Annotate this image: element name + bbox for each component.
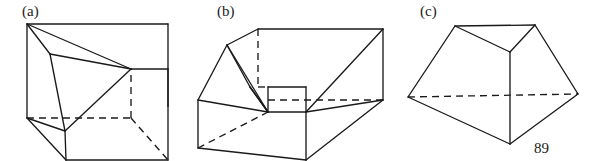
solid-edge (510, 94, 578, 144)
solid-edge (455, 26, 510, 52)
figures-canvas: (a) (0, 0, 596, 161)
solid-edge (455, 25, 535, 26)
figure-c: (c) (408, 3, 578, 144)
figure-b: (b) (198, 3, 383, 160)
figure-c-hidden-edges (408, 94, 578, 97)
figure-a-hidden-edges (27, 69, 168, 160)
figure-plate: (a) (0, 0, 596, 161)
figure-a: (a) (22, 3, 168, 160)
solid-edge (50, 54, 65, 131)
hidden-edge (198, 112, 268, 148)
solid-edge (27, 24, 131, 69)
figure-c-label: (c) (420, 3, 437, 20)
solid-edge (198, 45, 227, 100)
hidden-edge (408, 94, 578, 97)
figure-a-solid-edges (27, 24, 168, 160)
solid-edge (198, 148, 306, 160)
solid-edge (50, 54, 131, 69)
solid-edge (535, 25, 578, 94)
page-number: 89 (534, 140, 549, 156)
solid-edge (65, 69, 131, 131)
solid-edge (408, 26, 455, 97)
figure-b-label: (b) (217, 3, 235, 20)
solid-edge (198, 100, 268, 112)
solid-edge (65, 131, 66, 160)
figure-a-label: (a) (22, 3, 39, 20)
solid-edge (408, 97, 510, 144)
solid-edge (227, 45, 268, 112)
solid-edge (306, 100, 383, 112)
solid-edge (227, 29, 258, 45)
figure-b-solid-edges (198, 29, 383, 160)
solid-edge (306, 100, 383, 160)
solid-edge (510, 25, 535, 52)
hidden-edge (131, 118, 168, 160)
figure-c-solid-edges (408, 25, 578, 144)
